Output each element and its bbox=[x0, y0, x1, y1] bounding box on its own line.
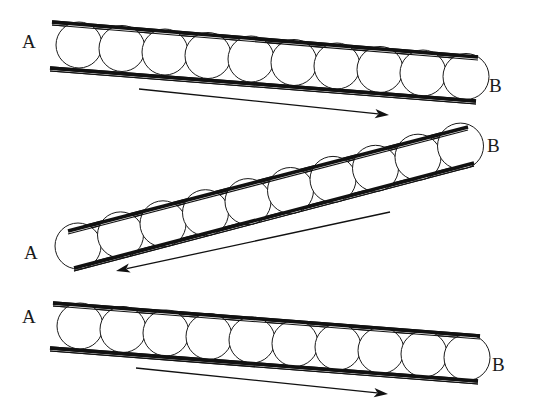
sphere bbox=[401, 331, 447, 377]
sphere bbox=[57, 303, 103, 349]
sphere bbox=[315, 324, 361, 370]
panel-middle-label-a: A bbox=[24, 242, 38, 263]
panel-top-label-b: B bbox=[489, 75, 502, 96]
panel-middle-label-b: B bbox=[487, 135, 500, 156]
sphere bbox=[100, 307, 146, 353]
figure-root: ABABAB bbox=[0, 0, 534, 417]
sphere bbox=[186, 314, 232, 360]
sphere bbox=[358, 328, 404, 374]
sphere bbox=[143, 310, 189, 356]
sphere bbox=[443, 54, 489, 100]
panel-bottom-label-a: A bbox=[22, 306, 36, 327]
sphere bbox=[272, 321, 318, 367]
sphere bbox=[229, 317, 275, 363]
panel-top-label-a: A bbox=[22, 31, 36, 52]
sphere bbox=[444, 335, 490, 381]
panel-bottom-label-b: B bbox=[492, 354, 505, 375]
tube-transport-diagram: ABABAB bbox=[0, 0, 534, 417]
